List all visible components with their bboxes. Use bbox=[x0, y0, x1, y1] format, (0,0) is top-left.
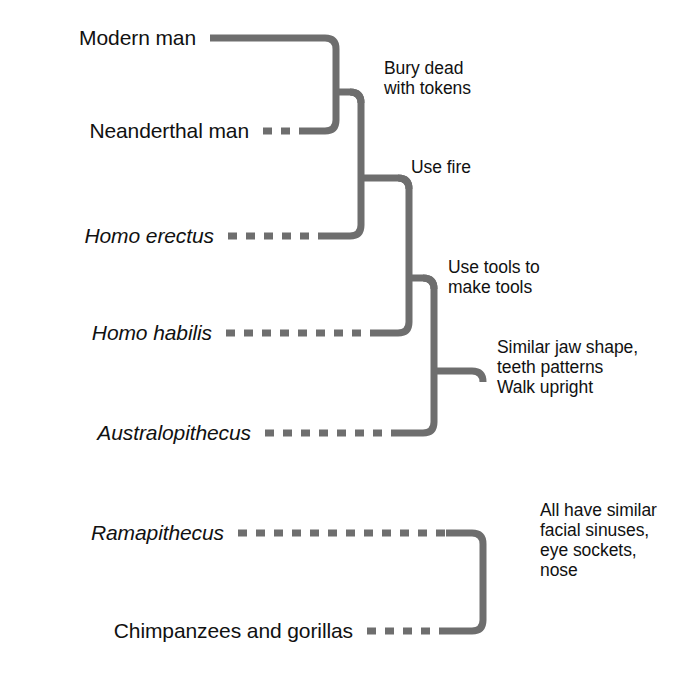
annotation-use-fire: Use fire bbox=[411, 157, 471, 177]
clade-bracket-node-similar-jaw bbox=[423, 278, 434, 433]
annotation-use-tools: Use tools to make tools bbox=[448, 257, 540, 297]
taxon-label-australopithecus: Australopithecus bbox=[97, 422, 251, 443]
clade-bracket-node-use-fire bbox=[350, 92, 361, 236]
clade-stem-node-similar-jaw bbox=[434, 371, 483, 382]
taxon-label-homo-habilis: Homo habilis bbox=[92, 322, 212, 343]
clade-bracket-node-bury-dead bbox=[325, 38, 336, 131]
branch-layer bbox=[210, 38, 483, 631]
taxon-label-chimpanzees-gorillas: Chimpanzees and gorillas bbox=[114, 620, 353, 641]
taxon-label-modern-man: Modern man bbox=[79, 27, 196, 48]
taxon-label-neanderthal-man: Neanderthal man bbox=[89, 120, 249, 141]
clade-bracket-node-all-similar bbox=[472, 533, 483, 631]
taxon-label-homo-erectus: Homo erectus bbox=[84, 225, 214, 246]
annotation-bury-dead: Bury dead with tokens bbox=[384, 58, 471, 98]
annotation-similar-jaw: Similar jaw shape, teeth patterns Walk u… bbox=[497, 337, 638, 397]
clade-bracket-node-use-tools bbox=[398, 178, 409, 333]
taxon-label-ramapithecus: Ramapithecus bbox=[91, 522, 224, 543]
annotation-all-similar: All have similar facial sinuses, eye soc… bbox=[540, 500, 657, 580]
